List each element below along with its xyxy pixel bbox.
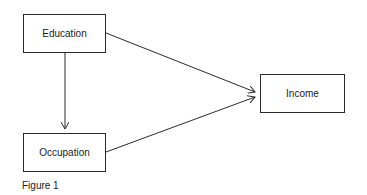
edge-education-income xyxy=(106,33,255,92)
node-label: Occupation xyxy=(39,147,90,158)
node-education: Education xyxy=(23,14,106,53)
node-income: Income xyxy=(260,74,345,113)
edge-occupation-income xyxy=(106,97,255,152)
node-occupation: Occupation xyxy=(23,133,106,172)
node-label: Income xyxy=(286,88,319,99)
figure-caption: Figure 1 xyxy=(22,180,59,191)
node-label: Education xyxy=(42,28,86,39)
